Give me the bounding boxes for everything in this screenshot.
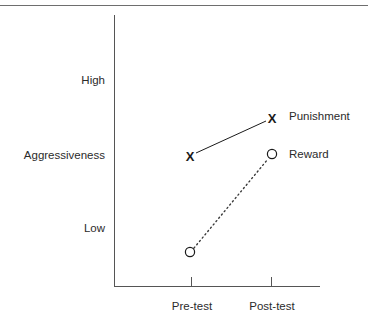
x-axis-label-post-test: Post-test — [249, 301, 294, 313]
x-axis-label-pre-test: Pre-test — [172, 301, 212, 313]
x-tick-post-test — [271, 277, 272, 287]
y-axis-label-high: High — [81, 75, 105, 87]
y-axis-label-low: Low — [84, 223, 105, 235]
x-axis-line — [114, 286, 320, 287]
top-divider-rule — [0, 5, 368, 6]
reward-series-line — [194, 159, 268, 248]
reward-marker-pre-test — [185, 247, 194, 256]
aggressiveness-line-chart: High Aggressiveness Low Pre-test Post-te… — [0, 0, 368, 328]
plot-area — [0, 0, 368, 328]
punishment-marker-pre-test: X — [186, 150, 195, 163]
reward-marker-post-test — [267, 149, 276, 158]
punishment-series-line — [196, 121, 266, 153]
series-label-punishment: Punishment — [289, 111, 350, 123]
y-axis-title-aggressiveness: Aggressiveness — [24, 150, 105, 162]
x-tick-pre-test — [191, 277, 192, 287]
y-axis-line — [114, 15, 115, 287]
punishment-marker-post-test: X — [268, 112, 277, 125]
series-label-reward: Reward — [289, 149, 329, 161]
